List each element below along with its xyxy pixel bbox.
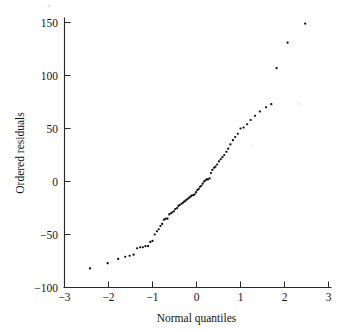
data-point bbox=[166, 218, 168, 220]
x-tick-label-minus-1: −1 bbox=[146, 291, 158, 303]
x-tick-label-2: 2 bbox=[282, 291, 288, 303]
data-point bbox=[237, 133, 239, 135]
data-point bbox=[142, 246, 144, 248]
x-tick-label-0: 0 bbox=[194, 291, 200, 303]
data-point bbox=[221, 156, 223, 158]
data-point bbox=[225, 151, 227, 153]
data-point bbox=[161, 223, 163, 225]
y-tick-label-150: 150 bbox=[41, 17, 59, 29]
data-point bbox=[124, 256, 126, 258]
data-point bbox=[232, 139, 234, 141]
data-point bbox=[254, 115, 256, 117]
data-point bbox=[218, 160, 220, 162]
data-point bbox=[159, 225, 161, 227]
data-point bbox=[287, 42, 289, 44]
data-point bbox=[209, 177, 211, 179]
data-point bbox=[136, 247, 138, 249]
data-point bbox=[200, 185, 202, 187]
data-point bbox=[250, 119, 252, 121]
data-point bbox=[216, 163, 218, 165]
data-point bbox=[220, 158, 222, 160]
x-axis-title: Normal quantiles bbox=[157, 312, 237, 325]
y-axis-title: Ordered residuals bbox=[14, 112, 26, 194]
data-point bbox=[243, 126, 245, 128]
data-point bbox=[173, 210, 175, 212]
data-point bbox=[151, 240, 153, 242]
data-point bbox=[129, 255, 131, 257]
y-tick-label-50: 50 bbox=[47, 123, 59, 135]
data-point bbox=[234, 136, 236, 138]
y-tick-label-minus-100: −100 bbox=[34, 282, 58, 294]
data-point bbox=[194, 193, 196, 195]
data-point bbox=[239, 127, 241, 129]
data-point bbox=[259, 110, 261, 112]
plot-canvas: 150 100 50 0 −50 −100 −3 −2 −1 0 1 2 3 bbox=[0, 0, 345, 331]
y-tick-label-100: 100 bbox=[41, 70, 59, 82]
data-point bbox=[147, 245, 149, 247]
data-point bbox=[149, 241, 151, 243]
qq-plot-figure: 150 100 50 0 −50 −100 −3 −2 −1 0 1 2 3 bbox=[0, 0, 345, 331]
data-point bbox=[156, 230, 158, 232]
data-point bbox=[229, 143, 231, 145]
data-point bbox=[154, 233, 156, 235]
data-point bbox=[211, 169, 213, 171]
data-point bbox=[270, 103, 272, 105]
data-point bbox=[223, 154, 225, 156]
data-point bbox=[107, 262, 109, 264]
data-point bbox=[304, 23, 306, 25]
data-point bbox=[133, 254, 135, 256]
data-point bbox=[227, 148, 229, 150]
y-tick-label-minus-50: −50 bbox=[40, 229, 58, 241]
data-point bbox=[144, 245, 146, 247]
x-tick-label-minus-3: −3 bbox=[58, 291, 70, 303]
data-point bbox=[117, 258, 119, 260]
data-point bbox=[158, 228, 160, 230]
data-point bbox=[198, 188, 200, 190]
x-tick-label-minus-2: −2 bbox=[102, 291, 114, 303]
data-point bbox=[139, 246, 141, 248]
x-tick-label-1: 1 bbox=[238, 291, 244, 303]
data-point bbox=[210, 172, 212, 174]
data-point bbox=[214, 166, 216, 168]
data-point bbox=[246, 123, 248, 125]
data-point bbox=[265, 106, 267, 108]
data-point bbox=[276, 67, 278, 69]
data-point bbox=[195, 191, 197, 193]
y-tick-label-0: 0 bbox=[52, 176, 58, 188]
data-point bbox=[202, 183, 204, 185]
x-tick-label-3: 3 bbox=[326, 291, 332, 303]
data-point bbox=[176, 207, 178, 209]
data-point bbox=[89, 267, 91, 269]
